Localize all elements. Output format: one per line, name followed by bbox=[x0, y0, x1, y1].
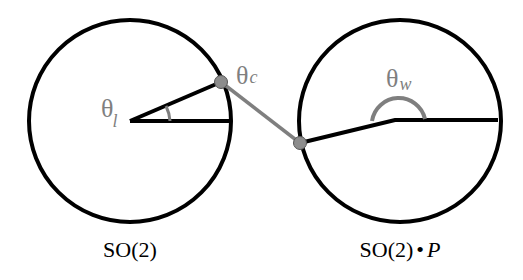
theta-c-label: θc bbox=[236, 61, 257, 90]
theta-l-label: θl bbox=[101, 94, 117, 131]
left-circle-group bbox=[29, 20, 231, 222]
connector-link bbox=[221, 82, 300, 143]
right-circle-group bbox=[299, 20, 501, 222]
theta-w-label: θw bbox=[386, 64, 411, 94]
left-link-radius bbox=[130, 82, 221, 121]
joint-left bbox=[215, 76, 228, 89]
so2-linkage-diagram: θl θc θw SO(2) SO(2)•P bbox=[0, 0, 523, 280]
joint-right bbox=[294, 137, 307, 150]
theta-w-arc bbox=[372, 98, 425, 121]
theta-l-arc bbox=[166, 106, 170, 121]
left-circle-label: SO(2) bbox=[103, 237, 157, 262]
right-circle-label: SO(2)•P bbox=[360, 237, 441, 262]
right-link bbox=[300, 120, 498, 143]
